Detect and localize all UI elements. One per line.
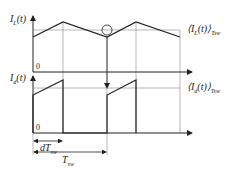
il-label: IL(t) bbox=[10, 14, 26, 26]
id-average-label: ⟨Id(t)⟩Tsw bbox=[187, 82, 220, 94]
tsw-label: Tsw bbox=[62, 155, 74, 167]
id-label: Id(t) bbox=[10, 73, 26, 85]
zero-label-bottom: 0 bbox=[36, 124, 40, 132]
il-average-label: ⟨IL(t)⟩Tsw bbox=[187, 24, 220, 36]
dtsw-label: dTsw bbox=[40, 143, 57, 155]
zero-label-top: 0 bbox=[36, 63, 40, 71]
